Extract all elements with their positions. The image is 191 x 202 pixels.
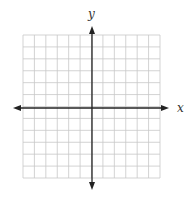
x-axis-right-arrow-icon <box>161 105 169 111</box>
x-axis-label: x <box>177 101 184 115</box>
x-axis <box>13 105 169 111</box>
x-axis-left-arrow-icon <box>13 105 21 111</box>
y-axis-up-arrow-icon <box>89 26 95 34</box>
y-axis-down-arrow-icon <box>89 182 95 190</box>
coordinate-plane: x y <box>0 0 191 202</box>
y-axis-label: y <box>87 7 95 21</box>
